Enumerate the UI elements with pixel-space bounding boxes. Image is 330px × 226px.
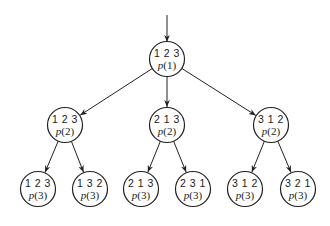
edge-arrow-n0-n3	[182, 68, 256, 115]
edge-arrow-n3-n9	[278, 141, 291, 172]
node-probability-label: p(3)	[28, 189, 48, 202]
node-probability-label: p(3)	[80, 189, 100, 202]
edge-arrow-n1-n5	[71, 141, 83, 172]
node-permutation-label: 3 1 2	[232, 177, 258, 189]
edges	[45, 15, 291, 172]
node-permutation-label: 1 2 3	[25, 177, 51, 189]
tree-node-n1: 1 2 3p(2)	[48, 108, 83, 143]
node-permutation-label: 1 3 2	[77, 177, 103, 189]
tree-node-n3: 3 1 2p(2)	[254, 108, 289, 143]
node-probability-label: p(2)	[261, 125, 281, 138]
tree-node-n6: 2 1 3p(3)	[124, 172, 159, 207]
edge-arrow-n1-n4	[45, 141, 58, 172]
node-probability-label: p(3)	[183, 189, 203, 202]
edge-arrow-n0-n1	[80, 69, 152, 116]
tree-node-n8: 3 1 2p(3)	[228, 172, 263, 207]
permutation-tree-diagram: 1 2 3p(1)1 2 3p(2)2 1 3p(2)3 1 2p(2)1 2 …	[0, 0, 330, 226]
node-permutation-label: 1 2 3	[154, 47, 180, 59]
tree-node-n4: 1 2 3p(3)	[21, 172, 56, 207]
node-probability-label: p(2)	[157, 125, 177, 138]
tree-node-n5: 1 3 2p(3)	[73, 172, 108, 207]
node-permutation-label: 1 2 3	[52, 113, 78, 125]
tree-node-n9: 3 2 1p(3)	[281, 172, 316, 207]
edge-arrow-n2-n7	[174, 141, 187, 172]
node-permutation-label: 2 1 3	[154, 113, 180, 125]
node-probability-label: p(2)	[55, 125, 75, 138]
node-probability-label: p(3)	[288, 189, 308, 202]
node-probability-label: p(3)	[131, 189, 151, 202]
tree-node-n2: 2 1 3p(2)	[150, 108, 185, 143]
edge-arrow-n3-n8	[252, 141, 265, 172]
tree-node-n0: 1 2 3p(1)	[150, 42, 185, 77]
node-permutation-label: 2 3 1	[180, 177, 206, 189]
node-permutation-label: 3 2 1	[285, 177, 311, 189]
edge-arrow-n2-n6	[148, 141, 161, 172]
node-probability-label: p(3)	[235, 189, 255, 202]
node-probability-label: p(1)	[157, 59, 177, 72]
node-permutation-label: 2 1 3	[128, 177, 154, 189]
tree-node-n7: 2 3 1p(3)	[176, 172, 211, 207]
node-permutation-label: 3 1 2	[258, 113, 284, 125]
nodes: 1 2 3p(1)1 2 3p(2)2 1 3p(2)3 1 2p(2)1 2 …	[21, 42, 316, 207]
